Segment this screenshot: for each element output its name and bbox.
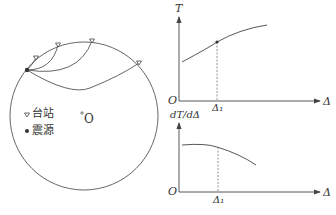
top-origin-label: O <box>168 95 177 106</box>
slope-curve <box>182 144 256 165</box>
top-plot-axes <box>179 17 320 101</box>
bottom-plot-axes <box>179 123 320 192</box>
top-point-marker <box>215 40 218 43</box>
top-y-axis-label: T <box>175 3 182 14</box>
center-label: O <box>84 113 94 125</box>
bottom-origin-label: O <box>168 186 177 197</box>
source-icon <box>25 68 29 72</box>
legend-source-icon <box>25 129 29 133</box>
travel-time-curve <box>182 25 267 62</box>
legend-station-icon <box>25 113 30 117</box>
legend-source-label: 震源 <box>32 125 54 136</box>
bottom-delta1-label: Δ₁ <box>213 195 224 205</box>
ray-paths <box>27 41 139 90</box>
top-delta1-label: Δ₁ <box>212 103 223 113</box>
bottom-y-axis-label: dT/dΔ <box>170 110 200 120</box>
bottom-x-axis-label: Δ <box>323 187 331 198</box>
legend-station-label: 台站 <box>32 108 54 119</box>
top-x-axis-label: Δ <box>323 96 331 107</box>
